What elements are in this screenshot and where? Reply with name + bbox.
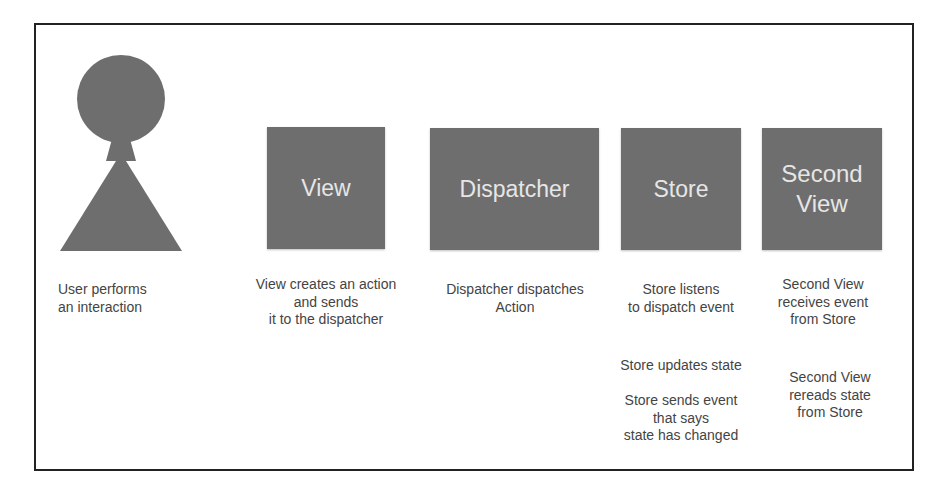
second-view-reread-caption: Second View rereads state from Store: [767, 369, 893, 422]
caption-line: and sends: [236, 294, 416, 312]
caption-line: from Store: [760, 311, 886, 329]
caption-line: from Store: [767, 404, 893, 422]
dispatcher-caption: Dispatcher dispatches Action: [420, 281, 610, 316]
store-box: Store: [621, 128, 741, 250]
second-view-label: Second: [781, 159, 862, 189]
dispatcher-box: Dispatcher: [430, 128, 599, 250]
store-caption: Store listens to dispatch event: [601, 281, 761, 316]
caption-line: receives event: [760, 294, 886, 312]
caption-line: state has changed: [601, 427, 761, 445]
caption-line: View creates an action: [236, 276, 416, 294]
caption-line: it to the dispatcher: [236, 311, 416, 329]
view-caption: View creates an action and sends it to t…: [236, 276, 416, 329]
caption-line: rereads state: [767, 387, 893, 405]
caption-line: Store sends event: [601, 392, 761, 410]
caption-line: Action: [420, 299, 610, 317]
caption-line: Dispatcher dispatches: [420, 281, 610, 299]
caption-line: Second View: [760, 276, 886, 294]
caption-line: that says: [601, 410, 761, 428]
store-event-caption: Store sends event that says state has ch…: [601, 392, 761, 445]
caption-line: Second View: [767, 369, 893, 387]
dispatcher-label: Dispatcher: [460, 174, 570, 204]
caption-line: Store updates state: [601, 357, 761, 375]
caption-line: User performs: [58, 281, 147, 299]
second-view-label: View: [781, 189, 862, 219]
store-update-caption: Store updates state: [601, 357, 761, 375]
second-view-box: Second View: [762, 128, 882, 250]
store-label: Store: [654, 174, 709, 204]
user-caption: User performs an interaction: [58, 281, 147, 316]
second-view-caption: Second View receives event from Store: [760, 276, 886, 329]
caption-line: an interaction: [58, 299, 147, 317]
view-box: View: [267, 127, 385, 249]
caption-line: to dispatch event: [601, 299, 761, 317]
caption-line: Store listens: [601, 281, 761, 299]
view-label: View: [301, 173, 350, 203]
user-figure-icon: [60, 53, 182, 253]
